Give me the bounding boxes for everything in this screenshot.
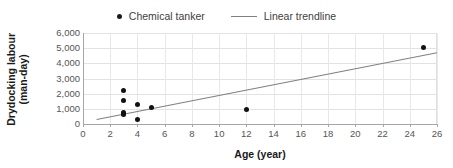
y-axis-tick-label: 0 xyxy=(44,119,80,129)
gridline-vertical xyxy=(437,33,438,124)
x-axis-tick-label: 14 xyxy=(262,129,286,139)
data-point xyxy=(135,102,140,107)
x-axis-tick-mark xyxy=(328,124,329,127)
x-axis-tick-mark xyxy=(83,124,84,127)
y-axis-title-line2: (man-day) xyxy=(17,54,29,104)
y-axis-tick-label: 4,000 xyxy=(44,58,80,68)
linear-trendline xyxy=(83,33,437,124)
x-axis-tick-label: 22 xyxy=(371,129,395,139)
y-axis-tick-label: 1,000 xyxy=(44,104,80,114)
x-axis-tick-mark xyxy=(301,124,302,127)
y-axis-tick-label: 2,000 xyxy=(44,89,80,99)
y-axis-tick-label: 3,000 xyxy=(44,74,80,84)
data-point xyxy=(135,117,140,122)
x-axis-tick-label: 12 xyxy=(234,129,258,139)
x-axis-tick-mark xyxy=(246,124,247,127)
y-axis-line xyxy=(83,33,84,125)
data-point xyxy=(149,105,154,110)
x-axis-tick-mark xyxy=(437,124,438,127)
y-axis-title: Drydocking labour (man-day) xyxy=(0,33,34,125)
y-axis-tick-labels: 01,0002,0003,0004,0005,0006,000 xyxy=(40,33,80,125)
y-axis-tick-label: 6,000 xyxy=(44,28,80,38)
line-marker-icon xyxy=(231,16,257,17)
plot-area xyxy=(83,33,437,124)
x-axis-tick-mark xyxy=(383,124,384,127)
x-axis-tick-mark xyxy=(137,124,138,127)
y-axis-title-line1: Drydocking labour xyxy=(5,33,17,126)
x-axis-tick-label: 2 xyxy=(98,129,122,139)
x-axis-tick-label: 20 xyxy=(343,129,367,139)
x-axis-tick-label: 8 xyxy=(180,129,204,139)
data-point xyxy=(244,107,249,112)
trendline-segment xyxy=(97,53,437,120)
x-axis-tick-mark xyxy=(410,124,411,127)
legend-item-chemical-tanker: Chemical tanker xyxy=(117,11,205,22)
dot-marker-icon xyxy=(117,14,122,19)
x-axis-tick-label: 10 xyxy=(207,129,231,139)
y-axis-tick-label: 5,000 xyxy=(44,43,80,53)
legend-label-chemical-tanker: Chemical tanker xyxy=(129,11,205,22)
x-axis-tick-mark xyxy=(274,124,275,127)
x-axis-tick-mark xyxy=(165,124,166,127)
x-axis-tick-labels: 02468101214161820222426 xyxy=(83,129,437,143)
legend-item-linear-trendline: Linear trendline xyxy=(231,11,336,22)
x-axis-title: Age (year) xyxy=(83,148,437,160)
scatter-chart-figure: Chemical tanker Linear trendline Drydock… xyxy=(0,0,453,168)
x-axis-tick-mark xyxy=(355,124,356,127)
x-axis-tick-label: 16 xyxy=(289,129,313,139)
x-axis-tick-label: 24 xyxy=(398,129,422,139)
data-point xyxy=(421,45,426,50)
x-axis-tick-label: 26 xyxy=(425,129,449,139)
x-axis-tick-mark xyxy=(192,124,193,127)
legend-label-linear-trendline: Linear trendline xyxy=(264,11,336,22)
x-axis-line xyxy=(83,124,437,125)
chart-legend: Chemical tanker Linear trendline xyxy=(0,6,453,26)
x-axis-tick-label: 18 xyxy=(316,129,340,139)
x-axis-tick-label: 0 xyxy=(71,129,95,139)
x-axis-tick-label: 4 xyxy=(125,129,149,139)
x-axis-tick-mark xyxy=(219,124,220,127)
x-axis-tick-mark xyxy=(110,124,111,127)
x-axis-tick-label: 6 xyxy=(153,129,177,139)
